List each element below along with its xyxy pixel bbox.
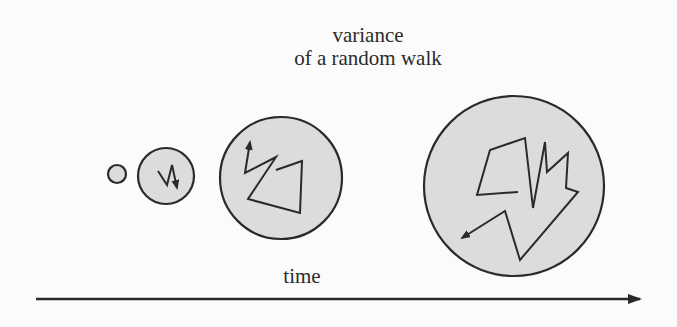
variance-circle-4: [424, 96, 604, 276]
figure-title: variance of a random walk: [268, 24, 468, 70]
time-axis-label: time: [268, 266, 336, 287]
variance-circle-2: [138, 148, 194, 204]
variance-circle-1: [108, 165, 126, 183]
variance-circle-3: [220, 117, 342, 239]
title-line-2: of a random walk: [268, 47, 468, 70]
random-walk-variance-figure: variance of a random walk time: [0, 0, 677, 327]
title-line-1: variance: [268, 24, 468, 47]
